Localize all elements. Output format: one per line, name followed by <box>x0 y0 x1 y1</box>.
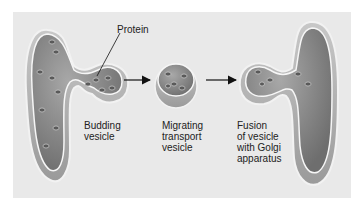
label-line: vesicle <box>162 142 203 153</box>
budding-vesicle-label: Budding vesicle <box>84 120 121 142</box>
migrating-vesicle-label: Migrating transport vesicle <box>162 120 203 153</box>
left-organelle <box>26 30 128 181</box>
label-line: Fusion <box>237 120 281 131</box>
protein-label: Protein <box>117 24 149 35</box>
fusion-label: Fusion of vesicle with Golgi apparatus <box>237 120 281 164</box>
label-line: of vesicle <box>237 131 281 142</box>
label-line: Migrating <box>162 120 203 131</box>
label-line: apparatus <box>237 153 281 164</box>
label-line: Budding <box>84 120 121 131</box>
label-line: transport <box>162 131 203 142</box>
migrating-vesicle <box>155 64 197 108</box>
label-line: with Golgi <box>237 142 281 153</box>
label-line: vesicle <box>84 131 121 142</box>
vesicle-transport-diagram <box>0 0 364 210</box>
